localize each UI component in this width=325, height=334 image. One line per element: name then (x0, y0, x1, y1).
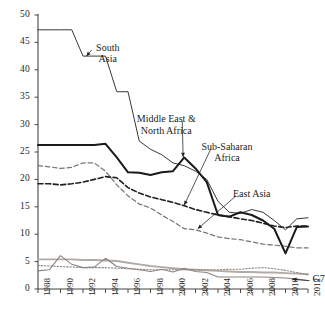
x-tick-label: 2008 (267, 278, 277, 296)
annotation-line: South (74, 42, 142, 54)
x-tick-label: 1990 (65, 278, 75, 296)
south-asia-label: SouthAsia (74, 42, 142, 65)
x-tick-label: 2010 (290, 278, 300, 296)
annotation-line: Sub-Saharan (193, 141, 261, 153)
y-tick-label: 25 (8, 146, 30, 156)
y-tick-label: 50 (8, 9, 30, 19)
series-line-sub-saharan-africa (38, 177, 308, 228)
annotation-line: East Asia (218, 188, 286, 200)
annotation-line: Asia (74, 53, 142, 65)
annotation-line: North Africa (132, 125, 200, 137)
y-tick-label: 0 (8, 283, 30, 293)
x-tick-label: 2006 (245, 278, 255, 296)
y-tick-label: 15 (8, 201, 30, 211)
annotation-line: G7 (313, 273, 325, 285)
x-tick-label: 1988 (42, 278, 52, 296)
x-tick-label: 2000 (177, 278, 187, 296)
y-tick-label: 35 (8, 91, 30, 101)
x-tick-label: 1998 (155, 278, 165, 296)
x-tick-label: 2002 (200, 278, 210, 296)
x-tick-label: 1996 (132, 278, 142, 296)
y-tick-label: 20 (8, 173, 30, 183)
x-tick-label: 1994 (110, 278, 120, 296)
y-tick-label: 5 (8, 256, 30, 266)
series-line-east-asia (38, 163, 308, 248)
annotation-arrowhead (181, 153, 185, 157)
x-tick-label: 1992 (87, 278, 97, 296)
y-tick-label: 45 (8, 36, 30, 46)
g7-label: G7 (313, 273, 325, 285)
y-tick-label: 40 (8, 64, 30, 74)
y-tick-label: 30 (8, 119, 30, 129)
east-asia-label: East Asia (218, 188, 286, 200)
y-tick-label: 10 (8, 228, 30, 238)
annotation-line: Middle East & (132, 113, 200, 125)
x-tick-label: 2004 (222, 278, 232, 296)
annotation-line: Africa (193, 152, 261, 164)
mena-label: Middle East &North Africa (132, 113, 200, 136)
sub-saharan-africa-label: Sub-SaharanAfrica (193, 141, 261, 164)
